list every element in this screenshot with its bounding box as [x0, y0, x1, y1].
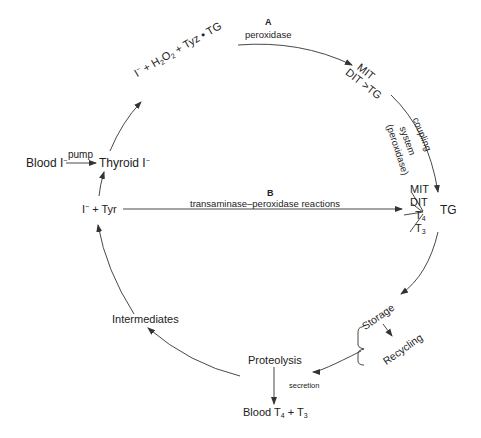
- arrow-to-storage: [401, 232, 438, 294]
- arrow-to-iodide-tyr: [98, 225, 134, 314]
- pathway-a-letter: A: [265, 18, 272, 27]
- arrow-to-intermediates: [148, 328, 240, 376]
- arrow-to-substrate: [110, 102, 141, 151]
- arrow-to-thyroid: [99, 172, 104, 196]
- storage-recycling-arrow: [383, 324, 392, 336]
- blood-t4-t3-node: Blood T4 + T3: [243, 407, 308, 418]
- bracket-lower: [358, 327, 364, 365]
- blood-iodide-node: Blood I−: [26, 157, 67, 169]
- arrow-to-proteolysis: [313, 351, 361, 372]
- intermediates-node: Intermediates: [112, 314, 179, 325]
- pump-label: pump: [68, 150, 93, 160]
- proteolysis-node: Proteolysis: [248, 355, 302, 366]
- iodide-tyr-node: I− + Tyr: [82, 204, 117, 215]
- tg-label: TG: [440, 204, 457, 216]
- t4-label: T4: [415, 210, 426, 221]
- dit-label: DIT: [410, 197, 428, 208]
- t3-label: T3: [415, 223, 426, 234]
- thyroid-iodide-node: Thyroid I−: [99, 157, 150, 169]
- secretion-label: secretion: [289, 382, 319, 390]
- diagram-arrows: [0, 0, 481, 438]
- peroxidase-arrow: [238, 44, 352, 65]
- peroxidase-label: peroxidase: [245, 30, 291, 40]
- transaminase-label: transaminase–peroxidase reactions: [190, 199, 340, 209]
- pathway-b-letter: B: [267, 189, 274, 198]
- mit-label: MIT: [410, 184, 429, 195]
